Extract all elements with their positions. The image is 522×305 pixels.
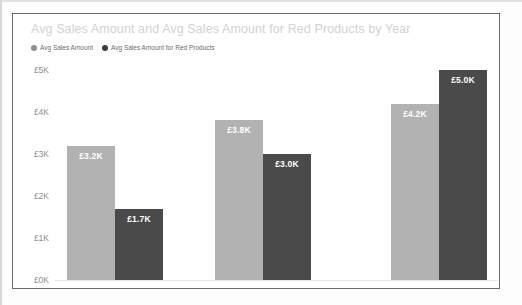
- legend-item-avg-sales-amount[interactable]: Avg Sales Amount: [31, 45, 93, 52]
- bar-2009-avg-sales-amount[interactable]: £4.2K: [391, 104, 439, 280]
- y-axis-tick-5: £5K: [34, 65, 49, 75]
- legend-swatch-icon: [31, 45, 37, 51]
- bar-value-label: £5.0K: [439, 75, 487, 85]
- bar-2008-avg-sales-amount[interactable]: £3.8K: [215, 120, 263, 280]
- bar-value-label: £3.2K: [67, 151, 115, 161]
- plot-area: £5K £4K £3K £2K £1K £0K £3.2K £1.7K £3.8…: [55, 70, 498, 280]
- y-axis-tick-3: £3K: [34, 149, 49, 159]
- legend-item-avg-sales-amount-red-products[interactable]: Avg Sales Amount for Red Products: [102, 45, 215, 52]
- chart-frame: Avg Sales Amount and Avg Sales Amount fo…: [12, 13, 500, 289]
- page-top-edge: [0, 0, 522, 2]
- legend-label: Avg Sales Amount: [40, 45, 93, 52]
- bar-2008-avg-sales-amount-red-products[interactable]: £3.0K: [263, 154, 311, 280]
- bar-2007-avg-sales-amount[interactable]: £3.2K: [67, 146, 115, 280]
- y-axis-tick-2: £2K: [34, 191, 49, 201]
- bar-2007-avg-sales-amount-red-products[interactable]: £1.7K: [115, 209, 163, 280]
- bar-value-label: £1.7K: [115, 214, 163, 224]
- legend-label: Avg Sales Amount for Red Products: [111, 45, 215, 52]
- bar-value-label: £3.0K: [263, 159, 311, 169]
- bar-value-label: £3.8K: [215, 125, 263, 135]
- chart-title: Avg Sales Amount and Avg Sales Amount fo…: [31, 22, 411, 36]
- x-axis-baseline: [55, 280, 498, 281]
- y-axis-tick-4: £4K: [34, 107, 49, 117]
- y-axis-tick-1: £1K: [34, 233, 49, 243]
- bar-value-label: £4.2K: [391, 109, 439, 119]
- y-axis-tick-0: £0K: [34, 275, 49, 285]
- page-left-edge: [0, 0, 2, 305]
- bar-2009-avg-sales-amount-red-products[interactable]: £5.0K: [439, 70, 487, 280]
- chart-legend: Avg Sales Amount Avg Sales Amount for Re…: [31, 45, 215, 52]
- page-background: Avg Sales Amount and Avg Sales Amount fo…: [0, 0, 522, 305]
- legend-swatch-icon: [102, 45, 108, 51]
